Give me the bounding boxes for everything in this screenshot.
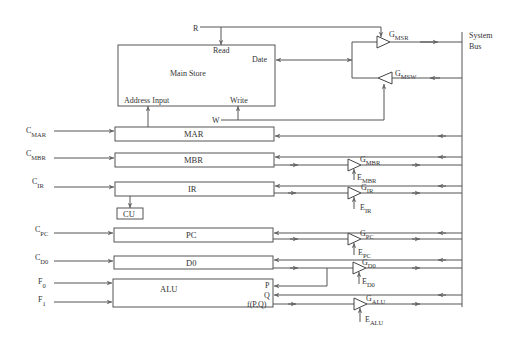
c-pc-label: CPC [35,225,48,237]
gate-msw: GMSW [378,69,462,84]
ed0-label: ED0 [362,277,375,288]
read-label: Read [213,46,229,55]
galu-label: GALU [366,294,385,305]
system-bus-label-line1: System [469,31,493,40]
d0-label: D0 [186,258,196,268]
embr-label: EMBR [357,173,377,184]
mbr-label: MBR [184,155,203,165]
address-input-label: Address Input [124,96,170,105]
cpu-datapath-diagram: System Bus Main Store Read Date Address … [0,0,521,344]
alu-label: ALU [160,284,177,294]
c-mbr-label: CMBR [26,149,46,161]
register-mbr: MBR CMBR GMBR EMBR [26,149,462,184]
gir-label: GIR [361,183,374,194]
system-bus: System Bus [462,31,493,307]
gpc-label: GPC [360,229,374,240]
mar-label: MAR [184,129,204,139]
f0-label: F0 [38,277,46,289]
d0-to-alu-p-line [274,268,327,286]
alu: ALU P Q f(P,Q) F0 F1 GALU EALU [38,277,462,326]
w-signal-label: W [212,116,220,125]
system-bus-label-line2: Bus [469,42,481,51]
main-store-label: Main Store [170,69,206,78]
f1-label: F1 [38,295,46,307]
main-store: Main Store Read Date Address Input Write… [118,24,384,127]
pc-label: PC [186,230,197,240]
eir-label: EIR [360,203,372,214]
gmsw-buffer-icon [378,72,392,84]
alu-q-port: Q [264,291,270,300]
register-pc: PC CPC GPC EPC [35,225,462,259]
c-mar-label: CMAR [26,126,47,138]
gate-msr: GMSR [377,30,462,48]
r-signal-label: R [193,24,199,33]
gmsr-label: GMSR [389,30,409,41]
write-label: Write [230,96,248,105]
ealu-label: EALU [365,315,384,326]
c-d0-label: CD0 [35,253,48,265]
c-ir-label: CIR [32,177,45,189]
data-label: Date [252,55,268,64]
register-ir: IR CIR GIR EIR CU [32,177,462,219]
alu-p-port: P [265,281,270,290]
ir-label: IR [188,184,197,194]
register-mar: MAR CMAR [26,126,462,141]
cu-label: CU [123,209,135,219]
alu-f-port: f(P,Q) [247,300,267,309]
